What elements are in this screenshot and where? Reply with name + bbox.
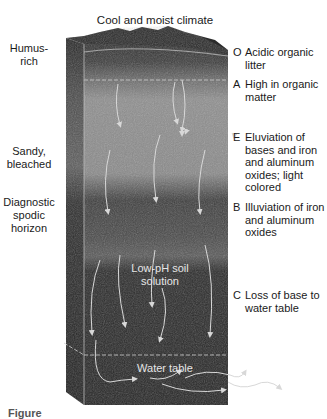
label-low-ph-solution: Low-pH soil solution [125, 262, 195, 287]
label-water-table: Water table [125, 362, 205, 375]
label-spodic-horizon: Diagnostic spodic horizon [0, 196, 62, 235]
label-sandy-bleached: Sandy, bleached [0, 145, 60, 171]
figure-caption: Figure [8, 407, 42, 419]
label-humus-rich: Humus- rich [0, 42, 60, 68]
